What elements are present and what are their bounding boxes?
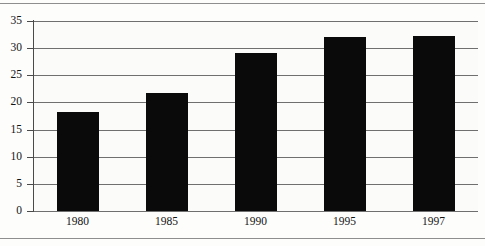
y-axis-tick	[27, 211, 33, 212]
bar	[324, 37, 366, 211]
y-axis-tick-label: 35	[0, 15, 22, 27]
y-axis-tick-label: 5	[0, 178, 22, 190]
plot-area	[33, 21, 478, 211]
gridline	[33, 211, 478, 212]
bar	[235, 53, 277, 212]
x-axis-tick-label: 1980	[66, 216, 89, 228]
x-axis-tick-label: 1990	[244, 216, 267, 228]
y-axis-tick	[27, 184, 33, 185]
gridline	[33, 48, 478, 49]
y-axis-tick	[27, 157, 33, 158]
bottom-horizontal-rule	[0, 238, 485, 239]
y-axis-spine	[33, 20, 34, 212]
y-axis-tick	[27, 102, 33, 103]
y-axis-tick	[27, 130, 33, 131]
y-axis-tick	[27, 75, 33, 76]
y-axis-tick-label: 10	[0, 151, 22, 163]
top-horizontal-rule	[0, 3, 485, 4]
gridline	[33, 21, 478, 22]
bar	[413, 36, 455, 211]
bar	[146, 93, 188, 211]
y-axis-tick-label: 20	[0, 97, 22, 109]
bar-chart-figure: 05101520253035 19801985199019951997	[0, 0, 485, 246]
x-axis-tick-label: 1995	[333, 216, 356, 228]
x-axis-tick-label: 1985	[155, 216, 178, 228]
bar	[57, 112, 99, 211]
x-axis-tick-label: 1997	[422, 216, 445, 228]
y-axis-tick	[27, 48, 33, 49]
y-axis-tick-label: 15	[0, 124, 22, 136]
y-axis-tick-label: 0	[0, 205, 22, 217]
y-axis-tick-label: 25	[0, 70, 22, 82]
y-axis-tick-label: 30	[0, 42, 22, 54]
y-axis-tick	[27, 21, 33, 22]
